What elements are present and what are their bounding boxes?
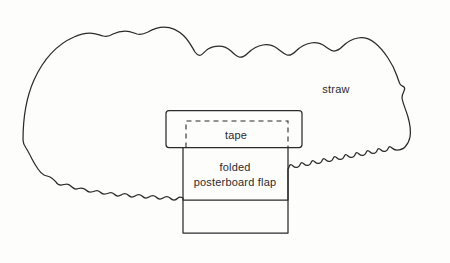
straw-label: straw (322, 82, 349, 97)
posterboard-flap-label-line2: posterboard flap (194, 175, 277, 190)
posterboard-flap-label: folded posterboard flap (194, 160, 277, 190)
posterboard-flap-label-line1: folded (194, 160, 277, 175)
diagram-page: straw tape folded posterboard flap (0, 0, 450, 263)
tape-label: tape (225, 128, 247, 143)
